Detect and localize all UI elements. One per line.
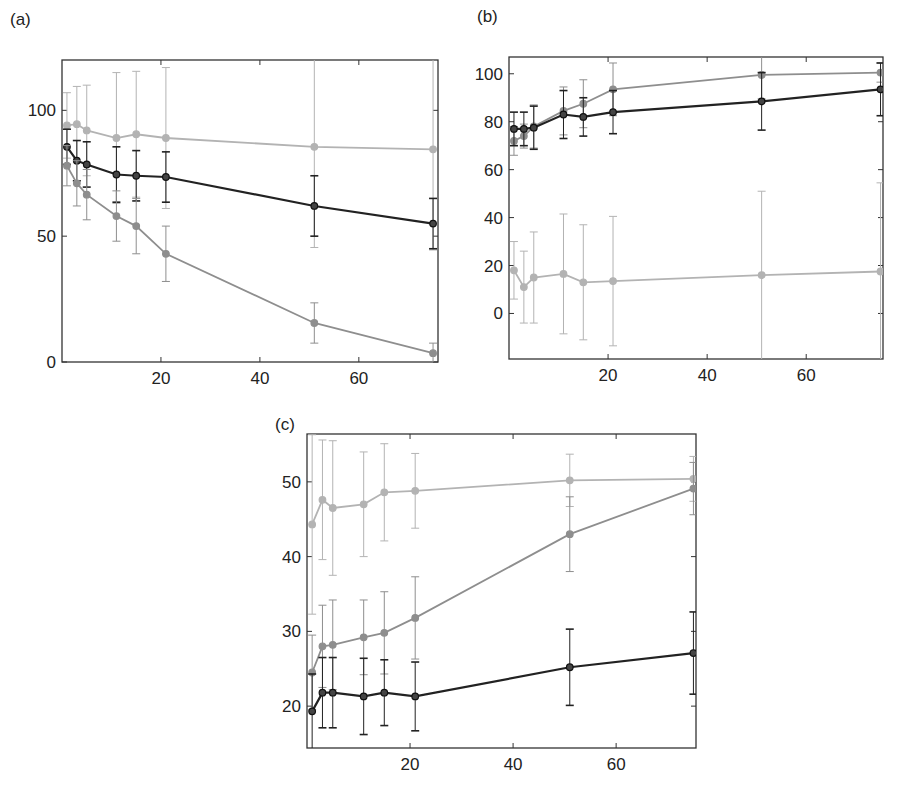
data-point: [511, 126, 518, 133]
data-point: [360, 634, 367, 641]
data-point: [412, 615, 419, 622]
series-dark: [510, 63, 885, 149]
data-point: [758, 272, 765, 279]
data-point: [83, 127, 90, 134]
y-tick-label: 100: [475, 65, 503, 84]
x-tick-label: 40: [698, 366, 717, 385]
data-point: [560, 271, 567, 278]
series-light: [63, 60, 437, 250]
data-point: [580, 279, 587, 286]
axes-frame: [62, 60, 438, 362]
data-point: [566, 477, 573, 484]
data-point: [64, 162, 71, 169]
data-point: [521, 126, 528, 133]
data-point: [329, 642, 336, 649]
data-point: [319, 496, 326, 503]
data-point: [360, 693, 367, 700]
data-point: [690, 650, 697, 657]
series-line: [67, 147, 433, 224]
data-point: [412, 693, 419, 700]
panel-b: (b) 204060020406080100: [475, 7, 885, 385]
data-point: [163, 174, 170, 181]
data-point: [381, 630, 388, 637]
x-tick-label: 40: [504, 755, 523, 774]
panel-label-b: (b): [477, 7, 498, 26]
y-tick-label: 40: [484, 209, 503, 228]
data-point: [566, 531, 573, 538]
y-tick-label: 100: [28, 101, 56, 120]
data-point: [530, 274, 537, 281]
data-point: [133, 131, 140, 138]
y-tick-label: 50: [37, 227, 56, 246]
data-point: [430, 146, 437, 153]
panel-label-c: (c): [275, 415, 295, 434]
data-point: [430, 350, 437, 357]
data-point: [319, 689, 326, 696]
series-light: [510, 183, 885, 359]
data-point: [521, 284, 528, 291]
x-tick-label: 60: [797, 366, 816, 385]
data-point: [311, 203, 318, 210]
x-tick-label: 20: [599, 366, 618, 385]
y-tick-label: 0: [47, 353, 56, 372]
panel-a: (a) 204060050100: [10, 10, 438, 388]
y-tick-label: 20: [484, 257, 503, 276]
data-point: [560, 111, 567, 118]
data-point: [113, 135, 120, 142]
y-tick-label: 20: [282, 697, 301, 716]
series-dark: [308, 612, 697, 748]
data-point: [610, 278, 617, 285]
y-tick-label: 50: [282, 473, 301, 492]
data-point: [64, 122, 71, 129]
data-point: [113, 171, 120, 178]
y-tick-label: 40: [282, 548, 301, 567]
data-point: [430, 220, 437, 227]
data-point: [758, 98, 765, 105]
panel-label-a: (a): [10, 10, 31, 29]
data-point: [311, 144, 318, 151]
y-tick-label: 60: [484, 161, 503, 180]
y-tick-label: 0: [494, 304, 503, 323]
data-point: [381, 489, 388, 496]
x-tick-label: 20: [151, 369, 170, 388]
data-point: [163, 135, 170, 142]
data-point: [113, 213, 120, 220]
series-medium: [63, 146, 437, 362]
data-point: [877, 86, 884, 93]
data-point: [319, 643, 326, 650]
data-point: [163, 250, 170, 257]
series-medium: [308, 462, 697, 709]
x-tick-label: 40: [250, 369, 269, 388]
series-line: [67, 124, 433, 149]
axes-frame: [509, 57, 883, 359]
series-dark: [63, 129, 437, 249]
figure: (a) 204060050100 (b) 204060020406080100 …: [0, 0, 905, 796]
series-light: [308, 435, 697, 614]
data-point: [610, 109, 617, 116]
data-point: [690, 485, 697, 492]
series-line: [514, 270, 881, 287]
data-point: [309, 708, 316, 715]
panel-c: (c) 20406020304050: [275, 415, 697, 774]
data-point: [133, 172, 140, 179]
series-line: [312, 489, 693, 673]
y-tick-label: 30: [282, 622, 301, 641]
x-tick-label: 60: [607, 755, 626, 774]
data-point: [329, 505, 336, 512]
data-point: [311, 320, 318, 327]
data-point: [580, 114, 587, 121]
data-point: [877, 268, 884, 275]
data-point: [83, 191, 90, 198]
y-tick-label: 80: [484, 113, 503, 132]
series-line: [312, 653, 693, 711]
x-tick-label: 60: [349, 369, 368, 388]
data-point: [360, 501, 367, 508]
data-point: [83, 161, 90, 168]
data-point: [381, 689, 388, 696]
data-point: [133, 223, 140, 230]
series-line: [312, 479, 693, 525]
data-point: [74, 180, 81, 187]
x-tick-label: 20: [401, 755, 420, 774]
data-point: [74, 121, 81, 128]
data-point: [329, 689, 336, 696]
